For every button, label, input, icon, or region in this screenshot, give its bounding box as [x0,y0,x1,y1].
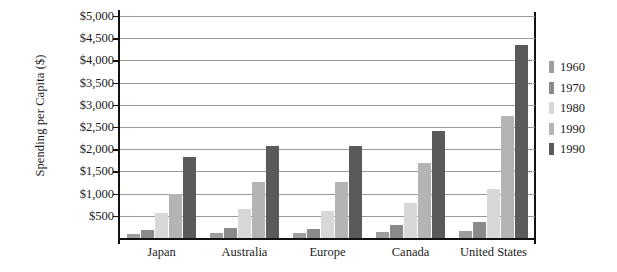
bar [390,225,403,238]
y-axis-tick-mark [113,38,120,39]
x-axis-line [118,238,535,240]
y-axis-tick-mark [113,60,120,61]
bar [459,231,472,238]
bar [432,131,445,238]
y-axis-tick-label: $1,000 [44,188,114,201]
legend-swatch-icon [549,102,554,114]
y-axis-tick-mark [113,105,120,106]
bar [487,189,500,238]
y-axis-tick-mark [113,194,120,195]
bar [376,232,389,238]
bar [501,116,514,238]
legend-item[interactable]: 1970 [549,78,615,99]
legend-item[interactable]: 1980 [549,98,615,119]
bar [349,146,362,238]
legend-label: 1970 [560,82,585,95]
y-axis-tick-mark [113,171,120,172]
bar-group [452,16,535,238]
bar-group [120,16,203,238]
y-axis-tick-label: $500 [44,210,114,223]
y-axis-tick-label: $5,000 [44,10,114,23]
legend-item[interactable]: 1990 [549,139,615,160]
bar [127,234,140,238]
y-axis-tick-mark [113,16,120,17]
x-axis-category-label: Australia [203,245,286,260]
bar [252,182,265,238]
legend-label: 1990 [560,123,585,136]
x-axis-category-label: United States [452,245,535,260]
y-axis-tick-label: $2,000 [44,143,114,156]
bar [266,146,279,238]
y-axis-tick-label: $2,500 [44,121,114,134]
bar-group [286,16,369,238]
bar [321,211,334,238]
bar [238,209,251,238]
legend-swatch-icon [549,61,554,73]
x-axis-category-labels: JapanAustraliaEuropeCanadaUnited States [120,245,535,267]
legend-label: 1980 [560,102,585,115]
legend-item[interactable]: 1960 [549,57,615,78]
y-axis-tick-label: $4,000 [44,54,114,67]
y-axis-tick-mark [113,83,120,84]
y-axis-tick-label: $4,500 [44,32,114,45]
y-axis-tick-label: $3,500 [44,77,114,90]
bar [210,233,223,238]
bar [418,163,431,238]
x-axis-category-label: Europe [286,245,369,260]
bar-group [203,16,286,238]
bar [183,157,196,238]
legend-swatch-icon [549,82,554,94]
chart-legend: 19601970198019901990 [549,57,615,160]
legend-item[interactable]: 1990 [549,119,615,140]
y-axis-tick-label: $1,500 [44,165,114,178]
y-axis-tick-label: $3,000 [44,99,114,112]
bars-layer [120,16,535,238]
bar [224,228,237,238]
x-axis-category-label: Japan [120,245,203,260]
legend-swatch-icon [549,143,554,155]
y-axis-tick-labels: $5,000$4,500$4,000$3,500$3,000$2,500$2,0… [44,0,114,272]
bar [293,233,306,238]
bar-chart: Spending per Capita ($) $5,000$4,500$4,0… [0,0,617,272]
bar [169,194,182,238]
bar [155,213,168,238]
bar-group [369,16,452,238]
bar [307,229,320,238]
x-axis-category-label: Canada [369,245,452,260]
bar [404,203,417,238]
plot-area [120,16,535,238]
y-axis-tick-mark [113,216,120,217]
y-axis-tick-mark [113,149,120,150]
y-axis-tick-mark [113,127,120,128]
bar [141,230,154,238]
bar [335,182,348,238]
bar [473,222,486,238]
bar [515,45,528,238]
legend-label: 1990 [560,143,585,156]
legend-swatch-icon [549,123,554,135]
legend-label: 1960 [560,61,585,74]
